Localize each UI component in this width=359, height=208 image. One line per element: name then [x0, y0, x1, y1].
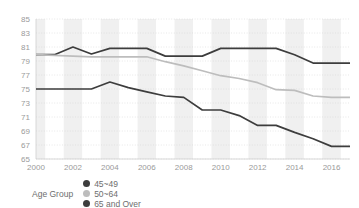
legend-title: Age Group: [32, 189, 73, 199]
x-tick-label: 2014: [286, 163, 304, 172]
x-axis-tick-labels: 200020022004200620082010201220142016: [27, 163, 341, 172]
y-tick-label: 67: [21, 141, 30, 150]
legend-color-dot-icon: [83, 180, 90, 187]
y-tick-label: 77: [21, 71, 30, 80]
y-tick-label: 71: [21, 113, 30, 122]
chart-svg: 8583817977757371696765 20002002200420062…: [0, 0, 359, 180]
x-tick-label: 2010: [212, 163, 230, 172]
legend-item[interactable]: 50~64: [83, 189, 141, 199]
x-tick-label: 2000: [27, 163, 45, 172]
x-tick-label: 2004: [101, 163, 119, 172]
y-tick-label: 73: [21, 99, 30, 108]
legend-item-label: 65 and Over: [94, 199, 141, 208]
chart-legend: Age Group 45~4950~6465 and Over: [0, 180, 359, 207]
x-tick-label: 2002: [64, 163, 82, 172]
background-band: [285, 19, 303, 159]
background-band: [101, 19, 119, 159]
legend-item[interactable]: 65 and Over: [83, 199, 141, 208]
legend-item-label: 50~64: [94, 189, 118, 199]
x-tick-label: 2008: [175, 163, 193, 172]
legend-item[interactable]: 45~49: [83, 179, 141, 189]
y-axis-tick-labels: 8583817977757371696765: [21, 15, 30, 164]
y-tick-label: 83: [21, 29, 30, 38]
x-tick-label: 2016: [323, 163, 341, 172]
y-tick-label: 75: [21, 85, 30, 94]
plot-area: 8583817977757371696765 20002002200420062…: [0, 0, 359, 180]
y-tick-label: 81: [21, 43, 30, 52]
y-tick-label: 79: [21, 57, 30, 66]
legend-color-dot-icon: [83, 200, 90, 207]
legend-item-label: 45~49: [94, 179, 118, 189]
x-tick-label: 2012: [249, 163, 267, 172]
legend-color-dot-icon: [83, 190, 90, 197]
y-tick-label: 85: [21, 15, 30, 24]
legend-items: 45~4950~6465 and Over: [83, 179, 154, 208]
line-chart: 8583817977757371696765 20002002200420062…: [0, 0, 359, 207]
x-tick-label: 2006: [138, 163, 156, 172]
y-tick-label: 69: [21, 127, 30, 136]
